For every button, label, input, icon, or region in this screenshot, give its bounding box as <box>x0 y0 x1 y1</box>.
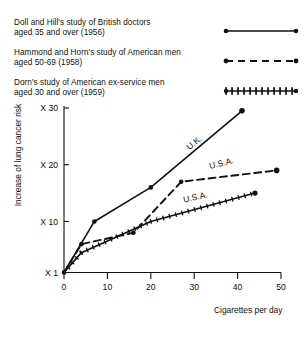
series-tick-marker <box>150 219 151 224</box>
series-point-marker <box>239 108 245 114</box>
series-point-marker <box>149 185 154 190</box>
y-tick-label: X 20 <box>40 160 58 170</box>
series-tick-marker <box>207 204 208 209</box>
series-tick-marker <box>134 226 136 230</box>
x-tick-label: 0 <box>62 282 67 292</box>
series-line <box>64 193 255 272</box>
series-tick-marker <box>146 221 148 225</box>
series-tick-marker <box>213 202 214 207</box>
y-tick-label: X 30 <box>40 103 58 113</box>
series-tick-marker <box>163 216 164 221</box>
series-tick-marker <box>128 229 130 233</box>
x-axis-tick-labels: 01020304050 <box>62 282 286 292</box>
x-tick-label: 30 <box>189 282 199 292</box>
chart-axes <box>64 106 281 273</box>
series-tick-marker <box>244 194 245 199</box>
series-tick-marker <box>92 245 94 249</box>
x-tick-label: 50 <box>276 282 286 292</box>
series-tick-marker <box>200 205 201 210</box>
series-tick-marker <box>104 240 106 244</box>
series-tick-marker <box>232 197 233 202</box>
y-tick-label: X 1 <box>45 268 58 278</box>
chart-series-2 <box>62 190 257 274</box>
series-tick-marker <box>116 234 118 238</box>
series-annotation-0: U.K. <box>184 133 203 151</box>
series-tick-marker <box>182 211 183 216</box>
y-axis-ticks <box>64 108 69 273</box>
series-tick-marker <box>188 209 189 214</box>
chart-series-annotations: U.K.U.S.A.U.S.A. <box>182 133 234 204</box>
y-axis-title: Increase of lung cancer risk <box>13 85 23 225</box>
x-tick-label: 40 <box>233 282 243 292</box>
x-axis-ticks <box>64 273 281 280</box>
series-annotation-2: U.S.A. <box>182 189 208 204</box>
series-tick-marker <box>86 248 88 252</box>
series-point-marker <box>131 230 136 235</box>
chart-plot-area: X 1X 10X 20X 30 01020304050 U.K.U.S.A.U.… <box>0 0 306 339</box>
series-tick-marker <box>169 214 170 219</box>
series-tick-marker <box>219 200 220 205</box>
series-tick-marker <box>156 217 157 222</box>
series-point-marker <box>179 179 184 184</box>
series-point-marker <box>79 242 84 247</box>
series-endpoint-marker <box>252 190 257 195</box>
series-tick-marker <box>175 212 176 217</box>
series-annotation-1: U.S.A. <box>208 155 235 171</box>
chart-series-layer <box>62 108 280 275</box>
series-tick-marker <box>225 199 226 204</box>
series-point-marker <box>92 219 97 224</box>
y-tick-label: X 10 <box>40 217 58 227</box>
series-tick-marker <box>238 195 239 200</box>
x-axis-title: Cigarettes per day <box>214 305 282 315</box>
series-tick-marker <box>98 242 100 246</box>
chart-page: Doll and Hill's study of British doctors… <box>0 0 306 339</box>
y-axis-tick-labels: X 1X 10X 20X 30 <box>40 103 58 278</box>
x-tick-label: 20 <box>146 282 156 292</box>
series-point-marker <box>274 168 280 174</box>
series-tick-marker <box>194 207 195 212</box>
x-tick-label: 10 <box>103 282 113 292</box>
series-tick-marker <box>251 192 252 197</box>
chart-svg: X 1X 10X 20X 30 01020304050 U.K.U.S.A.U.… <box>0 0 306 339</box>
